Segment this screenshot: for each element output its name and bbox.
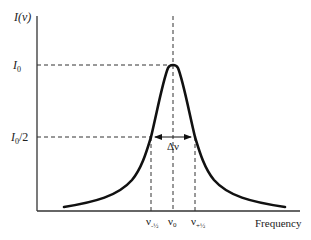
nu-plus-half-label: ν+½ (191, 215, 205, 230)
line-profile-diagram: Δν I(ν) I0 I0/2 ν-½ ν0 ν+½ Frequency (0, 0, 311, 240)
peak-intensity-label: I0 (12, 58, 21, 74)
x-axis-label: Frequency (255, 217, 302, 229)
y-axis-label: I(ν) (13, 10, 31, 24)
nu-zero-label: ν0 (168, 215, 177, 229)
half-max-label: I0/2 (10, 130, 28, 146)
line-profile-curve (64, 65, 285, 207)
fwhm-label: Δν (167, 140, 179, 152)
nu-minus-half-label: ν-½ (146, 215, 159, 230)
